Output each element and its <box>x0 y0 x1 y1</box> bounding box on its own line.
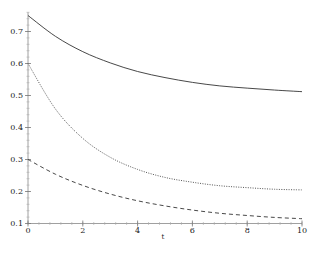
line-chart: 0.10.20.30.40.50.60.70246810t <box>0 0 317 254</box>
y-tick-label: 0.5 <box>10 91 23 100</box>
y-tick-label: 0.6 <box>10 59 23 68</box>
series-group <box>28 16 302 219</box>
y-tick-label: 0.2 <box>10 187 23 196</box>
x-tick-label: 4 <box>135 226 140 235</box>
series-line-solid <box>28 16 302 92</box>
x-tick-label: 6 <box>190 226 195 235</box>
x-tick-label: 0 <box>25 226 30 235</box>
series-line-dashed <box>28 160 302 219</box>
x-tick-label: 10 <box>297 226 307 235</box>
y-tick-label: 0.7 <box>10 27 23 36</box>
x-axis-label: t <box>162 233 165 241</box>
x-tick-label: 2 <box>80 226 85 235</box>
y-tick-label: 0.1 <box>10 219 23 228</box>
axes: 0.10.20.30.40.50.60.70246810t <box>10 12 307 241</box>
y-tick-label: 0.3 <box>10 155 23 164</box>
x-tick-label: 8 <box>245 226 250 235</box>
y-tick-label: 0.4 <box>10 123 23 132</box>
series-line-dotted <box>28 64 302 190</box>
